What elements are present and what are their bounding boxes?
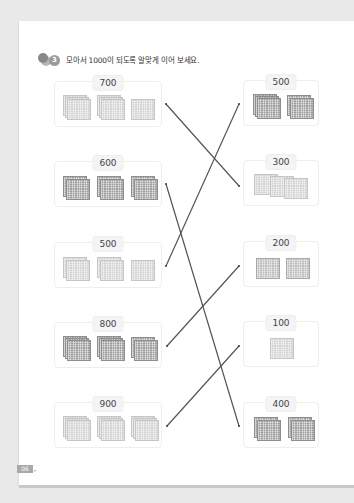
line-900-100 [167,346,239,426]
line-500-500 [166,104,239,266]
line-800-200 [167,266,239,346]
connection-lines [0,0,354,503]
line-600-400 [166,184,239,426]
page-arrow-icon: ▸ [34,467,37,473]
line-700-300 [166,104,239,186]
page-number-badge: 06 [17,465,33,473]
